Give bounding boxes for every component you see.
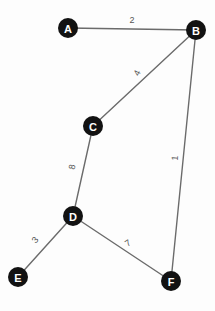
edge-weight-label-d-f: 7 [123,237,133,248]
graph-edge-d-e[interactable] [18,216,73,277]
graph-node-d[interactable]: D [63,206,83,226]
graph-node-a[interactable]: A [58,18,78,38]
graph-node-b[interactable]: B [186,20,206,40]
edge-weight-label-b-f: 1 [170,155,180,161]
node-label-e: E [14,272,21,284]
graph-edge-a-b[interactable] [68,28,196,30]
graph-node-f[interactable]: F [161,271,181,291]
node-label-c: C [89,121,97,133]
edge-weight-label-b-c: 4 [131,69,142,78]
graph-edge-b-c[interactable] [93,30,196,126]
graph-edge-d-f[interactable] [73,216,171,281]
graph-node-e[interactable]: E [8,267,28,287]
edge-weight-label-c-d: 8 [67,164,78,171]
graph-node-c[interactable]: C [83,116,103,136]
graph-svg: 248371 ABCDEF [0,0,215,311]
edges-layer [18,28,196,281]
edge-weight-labels-layer: 248371 [30,15,181,249]
nodes-layer: ABCDEF [8,18,206,291]
node-label-b: B [192,25,200,37]
graph-diagram-canvas: 248371 ABCDEF [0,0,215,311]
edge-weight-label-d-e: 3 [30,235,41,245]
edge-weight-label-a-b: 2 [129,15,134,25]
node-label-f: F [168,276,175,288]
node-label-a: A [64,23,72,35]
node-label-d: D [69,211,77,223]
